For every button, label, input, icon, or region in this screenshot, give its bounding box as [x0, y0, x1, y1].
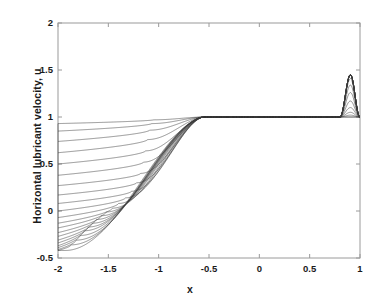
- svg-text:-1.5: -1.5: [100, 263, 117, 274]
- curve-profile-13: [58, 75, 360, 228]
- data-curves: [58, 75, 360, 251]
- curve-profile-8: [58, 85, 360, 195]
- curve-profile-15: [58, 75, 360, 237]
- y-axis-label: Horizontal lubricant velocity, u: [31, 41, 43, 251]
- curve-profile-21: [58, 75, 360, 251]
- svg-text:1: 1: [357, 263, 363, 274]
- curve-profile-19: [58, 75, 360, 248]
- curve-profile-7: [58, 93, 360, 186]
- svg-text:-0.5: -0.5: [201, 263, 218, 274]
- curve-profile-6: [58, 101, 360, 175]
- svg-text:-2: -2: [54, 263, 62, 274]
- curve-profile-11: [58, 75, 360, 218]
- curve-profile-17: [58, 75, 360, 243]
- svg-text:2: 2: [48, 17, 53, 28]
- curve-profile-9: [58, 78, 360, 203]
- svg-text:1: 1: [48, 111, 54, 122]
- svg-text:-1: -1: [154, 263, 163, 274]
- axes: [58, 23, 360, 258]
- figure: -2-1.5-1-0.500.51-0.500.511.52 Horizonta…: [0, 0, 380, 305]
- curve-profile-16: [58, 75, 360, 240]
- curve-profile-10: [58, 75, 360, 211]
- svg-text:0.5: 0.5: [303, 263, 317, 274]
- curve-profile-12: [58, 75, 360, 224]
- chart-canvas: -2-1.5-1-0.500.51-0.500.511.52: [0, 0, 380, 305]
- curve-profile-3: [58, 115, 360, 141]
- curve-profile-4: [58, 112, 360, 152]
- x-axis-label: x: [0, 283, 380, 295]
- svg-text:0: 0: [257, 263, 262, 274]
- svg-text:-0.5: -0.5: [37, 252, 54, 263]
- curve-profile-22: [58, 75, 360, 251]
- curve-profile-14: [58, 75, 360, 233]
- curve-profile-1: [58, 117, 360, 124]
- curve-profile-5: [58, 108, 360, 164]
- curve-profile-2: [58, 117, 360, 131]
- svg-text:0: 0: [48, 205, 53, 216]
- curve-profile-18: [58, 75, 360, 246]
- tick-labels: -2-1.5-1-0.500.51-0.500.511.52: [37, 17, 364, 274]
